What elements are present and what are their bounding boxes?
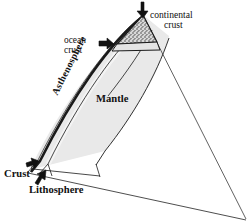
earth-layers-diagram: continental crust ocean crust Asthenosph… (0, 0, 250, 224)
label-crust: Crust (4, 168, 30, 179)
label-continental-crust-line2: crust (150, 20, 193, 30)
band-cut-line-3 (96, 164, 100, 177)
cone-bottom-edge (28, 173, 246, 220)
arrow-up-right-icon-lithosphere (35, 170, 46, 185)
label-continental-crust: continental crust (150, 10, 193, 30)
arrow-down-icon (137, 2, 148, 18)
label-mantle: Mantle (96, 93, 128, 104)
label-lithosphere: Lithosphere (29, 184, 84, 195)
